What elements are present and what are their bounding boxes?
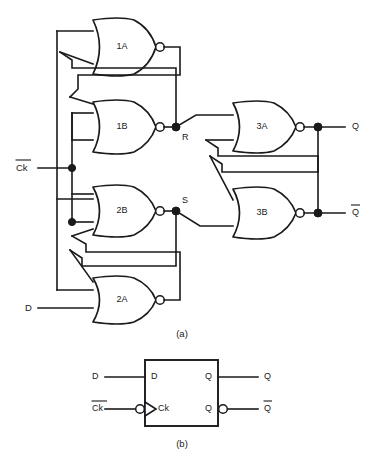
gate-label-2A: 2A (116, 294, 127, 304)
wire-S-to-3B (176, 211, 233, 226)
bubble-2A (156, 296, 165, 305)
gate-label-1A: 1A (116, 41, 127, 51)
caption-b: (b) (176, 438, 188, 449)
block-pin-ck: Ck (158, 403, 169, 413)
figure-root: 1A 1B 2B 2A 3A 3B (0, 0, 372, 472)
block-output-label-q: Q (264, 371, 271, 381)
junction-ck-upper (68, 164, 75, 171)
block-qbar-bubble (219, 405, 228, 414)
block-symbol: D D Ck Ck Q Q Q Q (92, 360, 273, 426)
block-pin-qbar: Q (205, 403, 212, 413)
node-label-R: R (182, 132, 189, 142)
block-body (145, 360, 218, 426)
output-label-q: Q (352, 121, 359, 131)
bubble-3B (296, 209, 305, 218)
gate-2B: 2B (93, 185, 164, 237)
bubble-3A (296, 123, 305, 132)
gate-2A: 2A (93, 276, 164, 324)
bubble-1B (156, 123, 165, 132)
wire-Q-cross-to-3B (210, 156, 233, 200)
bubble-1A (156, 43, 165, 52)
input-label-ck: Ck (16, 162, 28, 173)
wire-1A-cross-to-1B (70, 97, 93, 104)
gate-label-1B: 1B (116, 121, 127, 131)
input-label-d: D (25, 302, 32, 313)
node-label-S: S (182, 195, 188, 205)
bubble-2B (156, 207, 165, 216)
block-pin-q: Q (205, 371, 212, 381)
gate-label-3A: 3A (256, 121, 267, 131)
block-output-label-qbar: Q (264, 403, 271, 413)
block-input-label-d: D (92, 371, 99, 381)
block-input-label-ck: Ck (92, 403, 103, 413)
junction-ck-lower (68, 218, 75, 225)
circuit-schematic: 1A 1B 2B 2A 3A 3B (0, 0, 372, 472)
gate-label-2B: 2B (116, 205, 127, 215)
wire-2A-cross-to-2B (72, 229, 93, 236)
gate-1B: 1B (93, 100, 164, 154)
caption-a: (a) (176, 328, 188, 339)
wire-R-to-3A (176, 115, 233, 127)
block-ck-bubble (136, 405, 145, 414)
gate-3B: 3B (233, 187, 304, 239)
gate-3A: 3A (233, 101, 304, 153)
gate-label-3B: 3B (256, 207, 267, 217)
output-label-qbar: Q (352, 207, 359, 217)
block-pin-d: D (151, 371, 158, 381)
wire-R-cross-to-1A (60, 52, 93, 64)
